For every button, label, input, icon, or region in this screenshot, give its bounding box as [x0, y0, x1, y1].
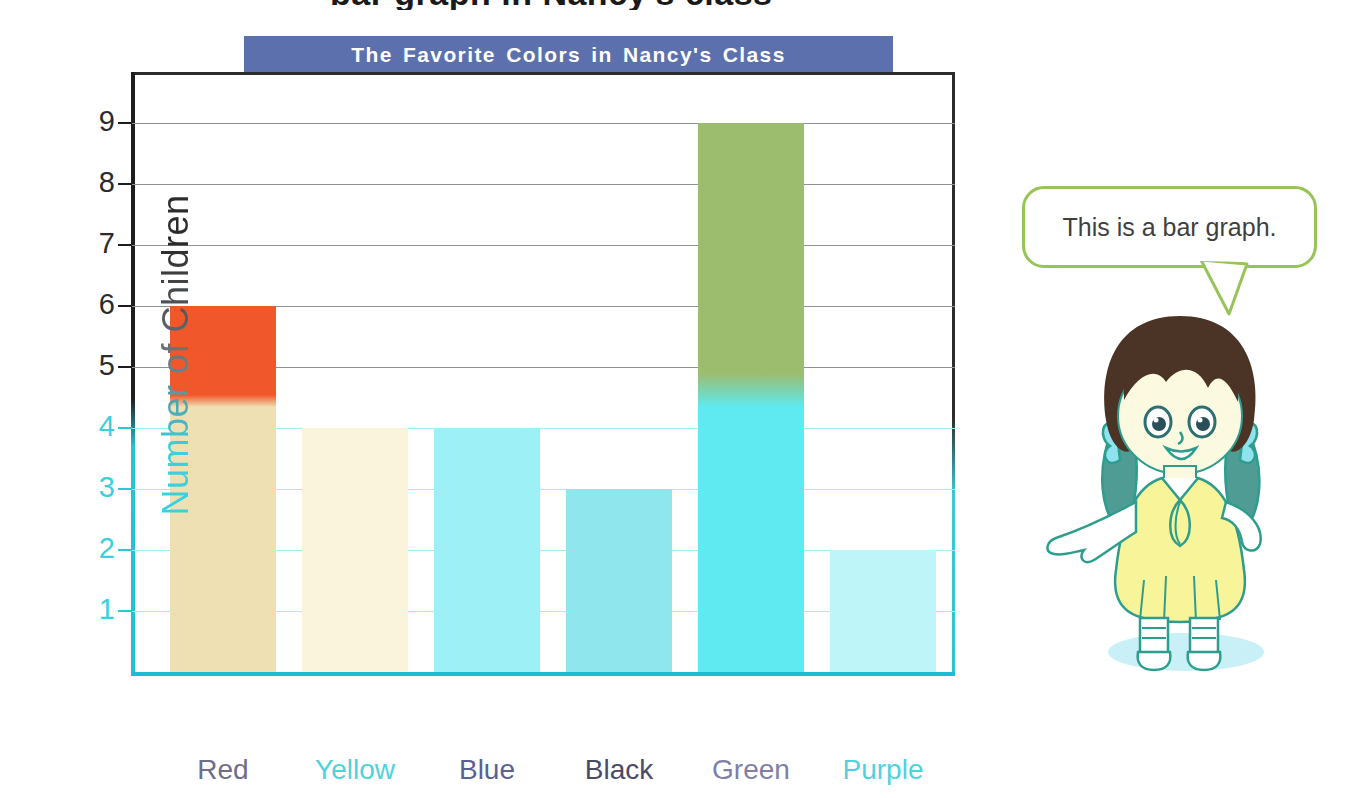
bar-black	[566, 489, 672, 672]
gridline-9	[131, 123, 955, 124]
y-tick-label-3: 3	[79, 473, 115, 502]
y-tick-8	[118, 183, 132, 185]
plot-border-top	[131, 72, 955, 75]
bar-segment-faded	[434, 428, 540, 672]
gridline-7	[131, 245, 955, 246]
y-tick-label-9: 9	[79, 107, 115, 136]
x-tick-label-green: Green	[698, 754, 804, 786]
y-tick-3	[118, 488, 132, 490]
bar-segment-faded	[830, 550, 936, 672]
bar-purple	[830, 550, 936, 672]
x-tick-label-yellow: Yellow	[302, 754, 408, 786]
y-tick-2	[118, 549, 132, 551]
cropped-page-heading: bar graph in Nancy's class	[330, 0, 970, 10]
bar-segment-solid	[698, 123, 804, 407]
bar-segment-faded	[566, 489, 672, 672]
y-tick-7	[118, 244, 132, 246]
x-tick-label-red: Red	[170, 754, 276, 786]
y-tick-label-1: 1	[79, 595, 115, 624]
y-tick-label-4: 4	[79, 412, 115, 441]
bar-green	[698, 123, 804, 672]
x-axis-line	[131, 672, 955, 676]
girl-character-illustration	[1040, 280, 1320, 680]
speech-bubble-text: This is a bar graph.	[1063, 213, 1277, 242]
y-tick-label-6: 6	[79, 290, 115, 319]
y-tick-label-8: 8	[79, 168, 115, 197]
plot-area: 987654321 RedYellowBlueBlackGreenPurple …	[131, 72, 955, 676]
chart-title-banner: The Favorite Colors in Nancy's Class	[244, 36, 893, 73]
plot-border-right	[952, 72, 955, 676]
y-axis-title: Number of Children	[155, 160, 197, 550]
y-tick-label-7: 7	[79, 229, 115, 258]
bar-yellow	[302, 428, 408, 672]
y-tick-label-5: 5	[79, 351, 115, 380]
y-tick-4	[118, 427, 132, 429]
y-tick-9	[118, 122, 132, 124]
x-tick-label-black: Black	[566, 754, 672, 786]
x-tick-label-purple: Purple	[830, 754, 936, 786]
y-tick-1	[118, 610, 132, 612]
y-axis-line	[131, 72, 135, 676]
bar-segment-faded	[698, 407, 804, 672]
y-tick-6	[118, 305, 132, 307]
gridline-8	[131, 184, 955, 185]
x-tick-label-blue: Blue	[434, 754, 540, 786]
y-tick-5	[118, 366, 132, 368]
bar-blue	[434, 428, 540, 672]
speech-bubble: This is a bar graph.	[1022, 186, 1317, 268]
chart-title: The Favorite Colors in Nancy's Class	[351, 43, 786, 67]
bar-segment-faded	[302, 428, 408, 672]
y-tick-label-2: 2	[79, 534, 115, 563]
